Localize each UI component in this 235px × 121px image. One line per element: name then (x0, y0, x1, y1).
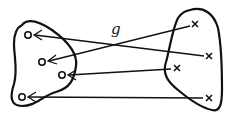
diagram-svg (0, 0, 235, 121)
arrow-b4-a4 (29, 97, 203, 98)
point-a1 (25, 32, 31, 38)
domain-points (19, 32, 65, 100)
point-b1 (192, 21, 198, 27)
function-label: g (111, 20, 121, 38)
arrow-b2-a1 (35, 35, 204, 56)
right-set-boundary (165, 9, 222, 110)
mapping-diagram: g (0, 0, 235, 121)
point-a2 (39, 59, 45, 65)
arrow-b3-a3 (69, 69, 171, 75)
point-a3 (59, 72, 65, 78)
codomain-points (174, 21, 212, 101)
point-b2 (206, 53, 212, 59)
point-b4 (206, 95, 212, 101)
point-b3 (174, 65, 180, 71)
point-a4 (19, 94, 25, 100)
